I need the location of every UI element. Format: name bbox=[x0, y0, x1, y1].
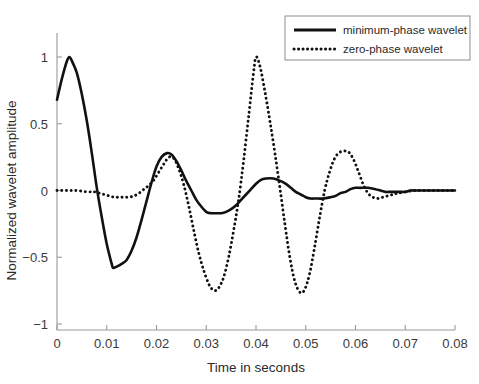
legend-label-1: minimum-phase wavelet bbox=[343, 24, 468, 36]
x-tick-label: 0.02 bbox=[144, 336, 169, 351]
x-tick-label: 0.04 bbox=[243, 336, 268, 351]
x-tick-label: 0.03 bbox=[194, 336, 219, 351]
y-tick-label: 1 bbox=[41, 50, 48, 65]
legend-label-2: zero-phase wavelet bbox=[343, 43, 444, 55]
series-line-2 bbox=[57, 57, 455, 293]
axis-spine bbox=[57, 33, 455, 330]
x-tick-label: 0.01 bbox=[94, 336, 119, 351]
chart-canvas: 00.010.020.030.040.050.060.070.08−1−0.50… bbox=[0, 0, 479, 384]
y-tick-label: 0 bbox=[41, 184, 48, 199]
wavelet-comparison-figure: 00.010.020.030.040.050.060.070.08−1−0.50… bbox=[0, 0, 479, 384]
y-axis-title: Normalized wavelet amplitude bbox=[4, 100, 19, 280]
x-tick-label: 0.05 bbox=[293, 336, 318, 351]
x-tick-label: 0.08 bbox=[442, 336, 467, 351]
series-line-1 bbox=[57, 57, 455, 268]
y-tick-label: −1 bbox=[33, 317, 48, 332]
x-tick-label: 0.06 bbox=[343, 336, 368, 351]
x-axis-title: Time in seconds bbox=[207, 360, 305, 375]
x-tick-label: 0 bbox=[53, 336, 60, 351]
y-tick-label: 0.5 bbox=[30, 117, 48, 132]
x-tick-label: 0.07 bbox=[393, 336, 418, 351]
y-tick-label: −0.5 bbox=[22, 250, 48, 265]
